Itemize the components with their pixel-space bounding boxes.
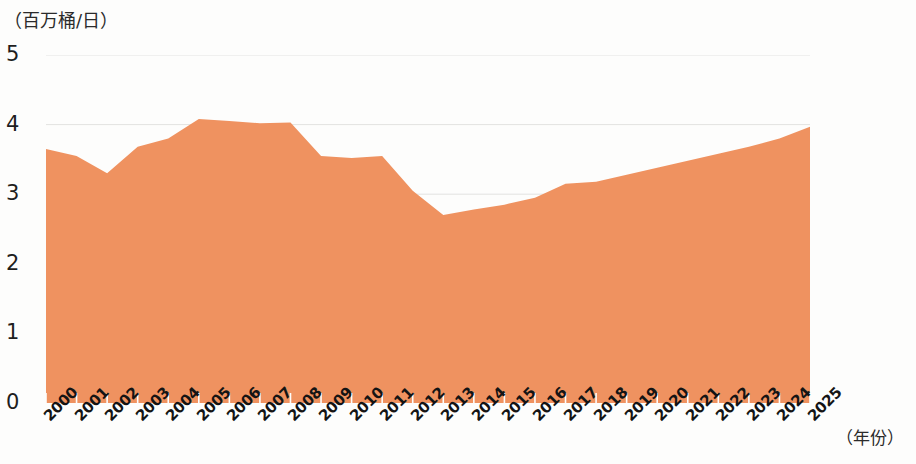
y-tick-label: 5 [6,44,36,65]
area-chart-svg [46,55,810,403]
y-tick-label: 1 [6,322,36,343]
area-series-path [46,119,810,403]
y-tick-label: 4 [6,114,36,135]
y-tick-label: 0 [6,392,36,413]
x-tick-label: 2025 [804,383,845,424]
y-tick-label: 3 [6,183,36,204]
y-tick-label: 2 [6,253,36,274]
chart-page: （百万桶/日） 543210 2000200120022003200420052… [0,0,916,464]
y-axis-unit-label: （百万桶/日） [4,6,118,32]
x-axis-unit-label: （年份） [836,424,904,449]
plot-area [46,55,810,403]
